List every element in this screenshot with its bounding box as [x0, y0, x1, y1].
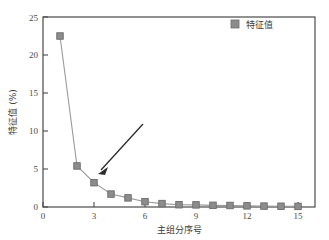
x-tick-label-9: 9 [194, 211, 199, 221]
data-point-marker [125, 195, 132, 202]
scree-plot-figure: 0 5 10 15 20 25 0 3 6 9 12 15 主组分序号 特征值 … [0, 0, 329, 240]
data-point-marker [261, 203, 268, 210]
y-tick-label-0: 0 [34, 202, 39, 212]
data-point-marker [176, 201, 183, 208]
x-tick-label-6: 6 [143, 211, 148, 221]
data-point-marker [74, 163, 81, 170]
data-point-marker [108, 191, 115, 198]
y-tick-label-25: 25 [29, 13, 39, 23]
data-point-marker [91, 179, 98, 186]
x-tick-label-3: 3 [92, 211, 97, 221]
y-tick-label-5: 5 [34, 164, 39, 174]
data-point-marker [227, 202, 234, 209]
y-axis-title: 特征值 (%) [7, 89, 18, 134]
data-point-marker [278, 203, 285, 210]
data-point-marker [142, 198, 149, 205]
x-tick-label-12: 12 [243, 211, 252, 221]
data-point-marker [57, 33, 64, 40]
data-point-marker [159, 200, 166, 207]
plot-frame [43, 17, 315, 207]
data-point-marker [244, 203, 251, 210]
data-point-marker [193, 202, 200, 209]
x-tick-label-15: 15 [294, 211, 304, 221]
legend: 特征值 [231, 19, 273, 30]
y-tick-label-20: 20 [29, 50, 39, 60]
data-point-marker [295, 203, 302, 210]
legend-label-eigenvalue: 特征值 [246, 19, 273, 30]
legend-square-marker-icon [231, 20, 239, 28]
x-axis-title: 主组分序号 [157, 224, 202, 235]
y-tick-label-10: 10 [29, 126, 39, 136]
y-tick-label-15: 15 [29, 88, 39, 98]
data-point-marker [210, 202, 217, 209]
x-tick-label-0: 0 [41, 211, 46, 221]
